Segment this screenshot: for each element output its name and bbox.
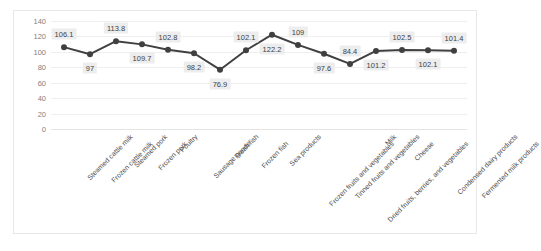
- x-axis-label: Fresh fish: [233, 133, 260, 160]
- y-axis-tick: 100: [33, 47, 46, 56]
- data-point-label: 97: [83, 63, 97, 74]
- data-point: [269, 32, 275, 38]
- x-axis-label: Steamed cattle milk: [86, 133, 135, 182]
- data-point-label: 76.9: [210, 78, 231, 89]
- data-point-label: 97.6: [314, 62, 335, 73]
- data-point-label: 102.5: [390, 31, 415, 42]
- data-point-label: 98.2: [184, 62, 205, 73]
- y-axis-tick: 120: [33, 32, 46, 41]
- data-point-label: 109.7: [130, 53, 155, 64]
- x-axis-label: Sea products: [288, 133, 323, 168]
- data-point: [321, 51, 327, 57]
- data-point: [191, 50, 197, 56]
- data-point-label: 102.1: [416, 59, 441, 70]
- x-axis-label: Poultry: [178, 133, 199, 154]
- data-point-label: 109: [289, 26, 308, 37]
- data-point-label: 106.1: [52, 29, 77, 40]
- data-point-label: 84.4: [340, 45, 361, 56]
- x-axis-category-labels: Steamed cattle milkFrozen cattle milkSte…: [51, 131, 467, 231]
- data-point: [399, 47, 405, 53]
- x-axis-label: Fermented milk products: [481, 140, 541, 200]
- y-axis-tick: 140: [33, 17, 46, 26]
- data-point: [451, 48, 457, 54]
- x-axis-label: Frozen fish: [260, 140, 290, 170]
- data-point-label: 122.2: [260, 43, 285, 54]
- y-axis-tick: 60: [38, 78, 46, 87]
- data-point-label: 101.4: [442, 32, 467, 43]
- data-point-label: 102.1: [234, 32, 259, 43]
- data-point: [165, 47, 171, 53]
- y-axis-tick: 0: [42, 125, 46, 134]
- data-point: [243, 47, 249, 53]
- y-axis-tick: 80: [38, 63, 46, 72]
- data-point: [373, 48, 379, 54]
- data-point: [61, 44, 67, 50]
- data-point: [113, 38, 119, 44]
- data-point: [87, 51, 93, 57]
- y-axis-tick: 20: [38, 109, 46, 118]
- data-point: [217, 67, 223, 73]
- chart-container: 140120100806040200 106.197113.8109.7102.…: [13, 10, 477, 234]
- plot-area: 140120100806040200 106.197113.8109.7102.…: [51, 21, 467, 129]
- data-point: [139, 41, 145, 47]
- data-point: [425, 47, 431, 53]
- y-axis-tick: 40: [38, 94, 46, 103]
- data-point: [347, 61, 353, 67]
- gridline: [51, 129, 467, 130]
- data-point-label: 113.8: [104, 23, 128, 34]
- data-point-label: 102.8: [156, 31, 181, 42]
- data-point: [295, 42, 301, 48]
- data-point-label: 101.2: [364, 59, 389, 70]
